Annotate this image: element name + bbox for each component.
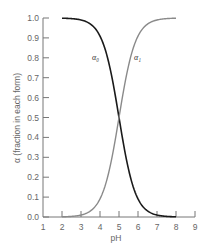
series-layer (62, 18, 176, 217)
x-tick-label: 5 (117, 222, 122, 232)
y-tick-label: 0.6 (27, 93, 39, 103)
series-label-alpha1: α₁ (134, 53, 141, 62)
x-tick-label: 1 (41, 222, 46, 232)
x-tick-label: 7 (155, 222, 160, 232)
x-axis-label: pH (111, 233, 122, 243)
fraction-vs-ph-chart: 0.00.10.20.30.40.50.60.70.80.91.0 123456… (0, 0, 212, 249)
y-tick-label: 0.5 (27, 113, 39, 123)
x-tick-label: 6 (136, 222, 141, 232)
x-tick-label: 9 (193, 222, 198, 232)
y-tick-label: 0.1 (27, 192, 39, 202)
x-tick-label: 2 (60, 222, 65, 232)
x-tick-label: 3 (79, 222, 84, 232)
y-axis: 0.00.10.20.30.40.50.60.70.80.91.0 (27, 13, 49, 222)
y-tick-label: 0.2 (27, 172, 39, 182)
x-axis: 123456789 (41, 211, 198, 232)
series-line-α1 (62, 18, 176, 217)
y-tick-label: 0.0 (27, 212, 39, 222)
x-tick-label: 8 (174, 222, 179, 232)
y-tick-label: 0.9 (27, 33, 39, 43)
x-tick-label: 4 (98, 222, 103, 232)
series-label-alpha0: α₀ (92, 53, 99, 62)
y-tick-label: 1.0 (27, 13, 39, 23)
y-tick-label: 0.7 (27, 73, 39, 83)
y-axis-label: α (fraction in each form) (12, 73, 22, 163)
y-tick-label: 0.3 (27, 152, 39, 162)
y-tick-label: 0.4 (27, 132, 39, 142)
y-tick-label: 0.8 (27, 53, 39, 63)
